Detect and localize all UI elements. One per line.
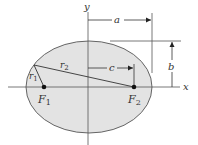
ellipse-diagram: x y a b c r1 r2 F1 F2	[0, 0, 198, 145]
c-label: c	[109, 62, 115, 73]
x-axis-label: x	[183, 81, 189, 92]
focus-f1-dot	[42, 85, 47, 90]
b-label: b	[168, 61, 174, 72]
a-label: a	[114, 14, 120, 25]
focus-f2-dot	[132, 85, 137, 90]
y-axis-label: y	[83, 1, 90, 12]
